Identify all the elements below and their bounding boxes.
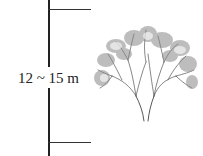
dimension-line-lower: [48, 88, 50, 156]
height-label: 12 ~ 15 m: [18, 69, 88, 87]
dimension-tick-bottom: [48, 142, 91, 143]
dimension-tick-top: [48, 9, 91, 10]
tree-icon: [94, 24, 198, 124]
